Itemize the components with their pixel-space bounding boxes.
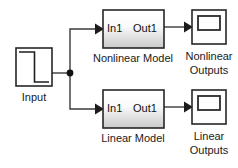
- nonlinear-scope-label-line1: Nonlinear: [185, 50, 232, 62]
- connection-branch-to-nonlinear: [70, 24, 104, 74]
- nonlinear-scope-label-line2: Outputs: [190, 64, 229, 76]
- diagram-svg: Input In1 Out1 Nonlinear Model In1 Out1 …: [0, 0, 238, 168]
- linear-scope-label-line1: Linear: [194, 130, 225, 142]
- block-linear-scope[interactable]: Linear Outputs: [190, 90, 229, 156]
- block-linear-model[interactable]: In1 Out1 Linear Model: [101, 90, 165, 144]
- scope-icon: [198, 16, 220, 30]
- scope-icon: [198, 96, 220, 110]
- connection-linear-to-scope: [164, 102, 193, 113]
- nonlinear-model-label: Nonlinear Model: [93, 52, 173, 64]
- block-diagram-canvas: Input In1 Out1 Nonlinear Model In1 Out1 …: [0, 0, 238, 168]
- linear-model-label: Linear Model: [101, 132, 165, 144]
- nonlinear-model-input-port-label: In1: [107, 22, 122, 34]
- block-nonlinear-scope[interactable]: Nonlinear Outputs: [185, 10, 232, 76]
- input-block-label: Input: [22, 91, 46, 103]
- block-nonlinear-model[interactable]: In1 Out1 Nonlinear Model: [93, 10, 173, 64]
- connection-branch-to-linear: [70, 73, 104, 115]
- signal-branch-point[interactable]: [67, 70, 74, 77]
- linear-model-output-port-label: Out1: [133, 102, 157, 114]
- nonlinear-model-output-port-label: Out1: [133, 22, 157, 34]
- block-input-source[interactable]: Input: [16, 48, 52, 103]
- connection-nonlinear-to-scope: [164, 22, 193, 33]
- linear-model-input-port-label: In1: [107, 102, 122, 114]
- linear-scope-label-line2: Outputs: [190, 144, 229, 156]
